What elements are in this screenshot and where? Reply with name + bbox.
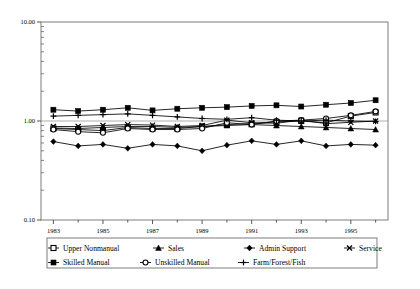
- marker-filled-diamond: [125, 145, 130, 151]
- marker-plus: [125, 111, 131, 117]
- legend-item-sales[interactable]: Sales: [153, 244, 184, 253]
- legend-item-upper-nonmanual[interactable]: Upper Nonmanual: [48, 244, 119, 253]
- marker-open-circle: [143, 260, 148, 265]
- marker-open-square: [51, 246, 56, 251]
- marker-filled-diamond: [75, 143, 80, 149]
- series-skilled-manual: [51, 98, 378, 114]
- marker-filled-square: [125, 105, 130, 110]
- marker-filled-square: [175, 106, 180, 111]
- legend-item-unskilled-manual[interactable]: Unskilled Manual: [140, 258, 210, 267]
- legend-label: Skilled Manual: [63, 258, 110, 267]
- marker-open-circle: [373, 109, 378, 114]
- marker-filled-square: [224, 105, 229, 110]
- marker-open-circle: [76, 129, 81, 134]
- x-axis-tick-label: 1993: [295, 227, 308, 234]
- y-axis-tick-label: 1.00: [24, 117, 35, 124]
- marker-open-circle: [150, 127, 155, 132]
- marker-filled-diamond: [247, 245, 252, 251]
- legend-label: Sales: [168, 244, 184, 253]
- marker-filled-square: [51, 260, 56, 265]
- series-admin-support: [51, 138, 379, 154]
- x-axis-tick-label: 1983: [47, 227, 60, 234]
- marker-open-circle: [125, 126, 130, 131]
- marker-open-circle: [348, 113, 353, 118]
- marker-open-circle: [100, 130, 105, 135]
- marker-filled-square: [373, 98, 378, 103]
- chart-container: 10.001.000.10198319851987198919911993199…: [0, 0, 420, 289]
- legend-label: Upper Nonmanual: [63, 244, 119, 253]
- series-layer: [50, 98, 378, 154]
- marker-open-circle: [175, 127, 180, 132]
- marker-filled-square: [200, 105, 205, 110]
- x-axis-tick-label: 1991: [245, 227, 258, 234]
- marker-filled-diamond: [249, 138, 254, 144]
- marker-plus: [50, 113, 56, 119]
- legend-label: Unskilled Manual: [155, 258, 210, 267]
- marker-filled-diamond: [224, 142, 229, 148]
- x-axis-tick-label: 1987: [146, 227, 160, 234]
- marker-filled-diamond: [348, 142, 353, 148]
- legend-label: Service: [359, 244, 382, 253]
- marker-filled-square: [51, 107, 56, 112]
- marker-plus: [174, 114, 180, 120]
- marker-filled-diamond: [373, 142, 378, 148]
- legend-item-farm-forest-fish[interactable]: Farm/Forest/Fish: [238, 258, 306, 267]
- x-axis-tick-label: 1989: [196, 227, 209, 234]
- x-axis-tick-label: 1995: [344, 227, 357, 234]
- marker-filled-square: [274, 103, 279, 108]
- marker-filled-square: [348, 100, 353, 105]
- marker-filled-diamond: [100, 142, 105, 148]
- marker-filled-square: [150, 108, 155, 113]
- legend-item-skilled-manual[interactable]: Skilled Manual: [48, 258, 110, 267]
- marker-filled-diamond: [51, 139, 56, 145]
- y-axis-tick-label: 10.00: [20, 18, 35, 25]
- legend-item-admin-support[interactable]: Admin Support: [244, 244, 307, 253]
- x-axis-tick-label: 1985: [96, 227, 109, 234]
- marker-plus: [199, 116, 205, 122]
- legend-label: Farm/Forest/Fish: [253, 258, 306, 267]
- marker-filled-diamond: [175, 143, 180, 149]
- marker-filled-diamond: [150, 142, 155, 148]
- marker-open-circle: [249, 122, 254, 127]
- marker-plus: [150, 112, 156, 118]
- marker-filled-square: [100, 107, 105, 112]
- marker-filled-square: [324, 102, 329, 107]
- marker-filled-diamond: [323, 143, 328, 149]
- marker-filled-diamond: [299, 138, 304, 144]
- marker-filled-square: [249, 103, 254, 108]
- marker-open-circle: [200, 126, 205, 131]
- marker-filled-diamond: [199, 148, 204, 154]
- y-axis-tick-label: 0.10: [24, 216, 35, 223]
- marker-plus: [241, 260, 247, 266]
- legend-item-service[interactable]: Service: [344, 244, 382, 253]
- marker-filled-diamond: [274, 142, 279, 148]
- marker-filled-square: [299, 104, 304, 109]
- log-line-chart: 10.001.000.10198319851987198919911993199…: [0, 0, 420, 289]
- marker-plus: [249, 115, 255, 121]
- marker-plus: [100, 112, 106, 118]
- marker-open-circle: [51, 127, 56, 132]
- legend-label: Admin Support: [259, 244, 307, 253]
